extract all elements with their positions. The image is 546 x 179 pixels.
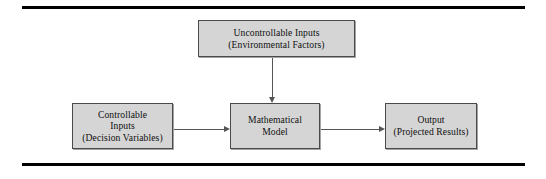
node-output-line1: Output	[417, 114, 444, 126]
bottom-rule	[22, 163, 525, 166]
arrow-right-icon-controllable-to-model	[174, 126, 231, 134]
node-controllable-inputs: Controllable Inputs (Decision Variables)	[72, 103, 173, 149]
arrow-down-icon-uncontrollable-to-model	[269, 58, 277, 104]
node-controllable-inputs-line3: (Decision Variables)	[82, 132, 162, 144]
arrow-head	[269, 97, 275, 103]
node-output-line2: (Projected Results)	[393, 126, 468, 138]
node-mathematical-model-line1: Mathematical	[248, 114, 302, 126]
node-controllable-inputs-line1: Controllable	[98, 109, 147, 121]
node-output: Output (Projected Results)	[385, 103, 477, 149]
node-uncontrollable-inputs-line2: (Environmental Factors)	[228, 39, 324, 51]
arrow-shaft	[272, 58, 273, 98]
node-mathematical-model-line2: Model	[262, 126, 288, 138]
arrow-shaft	[174, 129, 225, 130]
arrow-shaft	[321, 129, 380, 130]
top-rule	[22, 6, 525, 9]
node-uncontrollable-inputs-line1: Uncontrollable Inputs	[233, 27, 319, 39]
node-mathematical-model: Mathematical Model	[230, 103, 320, 149]
arrow-head	[379, 126, 385, 132]
node-uncontrollable-inputs: Uncontrollable Inputs (Environmental Fac…	[198, 20, 355, 57]
model-diagram-figure: Uncontrollable Inputs (Environmental Fac…	[0, 0, 546, 179]
node-controllable-inputs-line2: Inputs	[110, 120, 135, 132]
arrow-head	[224, 126, 230, 132]
arrow-right-icon-model-to-output	[321, 126, 386, 134]
